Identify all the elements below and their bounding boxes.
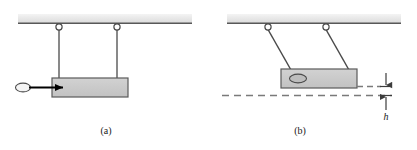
figure-canvas: (a) bbox=[0, 0, 417, 150]
pivot-right-icon bbox=[114, 24, 120, 30]
ceiling-slab bbox=[227, 14, 401, 23]
height-label-h: h bbox=[384, 111, 389, 122]
pivot-left-icon bbox=[265, 24, 271, 30]
support-ceiling bbox=[227, 14, 401, 23]
ceiling-slab bbox=[18, 14, 192, 23]
panel-a-caption: (a) bbox=[100, 125, 111, 137]
support-ceiling bbox=[18, 14, 192, 23]
pivot-left-icon bbox=[56, 24, 62, 30]
pendulum-block bbox=[52, 78, 128, 97]
embedded-bullet-icon bbox=[290, 74, 307, 83]
pivot-right-icon bbox=[323, 24, 329, 30]
ballistic-pendulum-figure: (a) bbox=[0, 0, 417, 150]
panel-b-caption: (b) bbox=[294, 125, 306, 137]
bullet-projectile-icon bbox=[16, 83, 31, 92]
